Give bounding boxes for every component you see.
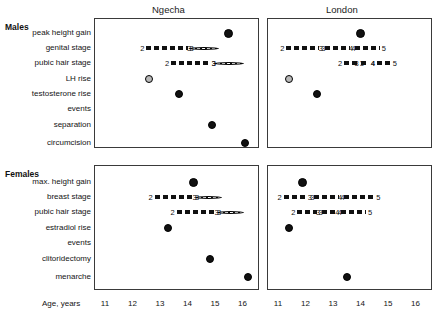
data-point-peak-height-gain: [356, 29, 365, 38]
plot-panel-males-london: [267, 18, 432, 148]
data-point-max-height-gain: [189, 178, 198, 187]
stage-number: 4: [334, 208, 340, 217]
stage-number: 4: [337, 193, 343, 202]
row-label-lh-rise: LH rise: [9, 74, 91, 83]
row-label-circumcision: circumcision: [29, 138, 91, 147]
row-label-clitoridectomy: clitoridectomy: [29, 254, 91, 263]
stage-bar-breast-stage: 233445: [0, 192, 437, 202]
data-point-testosterone-rise: [313, 90, 321, 98]
stage-number: 3: [307, 193, 313, 202]
stage-number: 5: [375, 193, 381, 202]
data-point-menarche: [343, 273, 351, 281]
row-label-menarche: menarche: [29, 272, 91, 281]
x-axis-label: Age, years: [42, 299, 80, 308]
data-point-lh-rise: [285, 75, 293, 83]
stage-number: 5: [381, 44, 387, 53]
row-label-estradiol-rise: estradiol rise: [9, 223, 91, 232]
row-label-testosterone-rise: testosterone rise: [9, 89, 91, 98]
stage-number: 5: [367, 208, 373, 217]
row-label-events: events: [9, 104, 91, 113]
x-tick-label: 16: [407, 299, 425, 308]
stage-segment: [377, 61, 391, 65]
x-tick-label: 11: [96, 299, 114, 308]
plot-panel-males-ngecha: [94, 18, 259, 148]
stage-bar-pubic-hair-stage: 233445: [0, 58, 437, 68]
stage-number: 3: [318, 44, 324, 53]
figure-root: Ngecha London Males Females peak height …: [0, 0, 437, 320]
x-tick-label: 12: [297, 299, 315, 308]
stage-number: 4: [348, 44, 354, 53]
data-point-lh-rise: [145, 75, 153, 83]
stage-number: 5: [392, 59, 398, 68]
x-tick-label: 12: [124, 299, 142, 308]
x-tick-label: 14: [352, 299, 370, 308]
data-point-estradiol-rise: [285, 224, 293, 232]
x-tick-label: 16: [234, 299, 252, 308]
stage-segment: [286, 46, 319, 50]
data-point-clitoridectomy: [206, 255, 214, 263]
panel-title-ngecha: Ngecha: [152, 4, 185, 15]
x-tick-label: 15: [379, 299, 397, 308]
row-label-separation: separation: [29, 120, 91, 129]
stage-segment: [297, 210, 316, 214]
x-tick-label: 11: [269, 299, 287, 308]
data-point-menarche: [244, 273, 252, 281]
x-tick-label: 14: [179, 299, 197, 308]
stage-number: 4: [370, 59, 376, 68]
stage-number: 3: [354, 59, 360, 68]
data-point-peak-height-gain: [224, 29, 233, 38]
row-label-peak-height-gain: peak height gain: [9, 28, 91, 37]
panel-title-london: London: [326, 4, 358, 15]
stage-number: 2: [279, 44, 285, 53]
plot-panel-females-ngecha: [94, 165, 259, 290]
stage-segment: [341, 210, 366, 214]
stage-segment: [284, 195, 309, 199]
stage-number: 3: [315, 208, 321, 217]
stage-number: 2: [290, 208, 296, 217]
stage-segment: [355, 46, 380, 50]
stage-segment: [314, 195, 339, 199]
stage-segment: [361, 61, 369, 65]
data-point-max-height-gain: [298, 178, 307, 187]
x-tick-label: 13: [324, 299, 342, 308]
stage-bar-genital-stage: 233445: [0, 43, 437, 53]
row-label-events: events: [9, 238, 91, 247]
x-tick-label: 15: [206, 299, 224, 308]
stage-bar-pubic-hair-stage: 233445: [0, 207, 437, 217]
x-tick-label: 13: [151, 299, 169, 308]
stage-number: 2: [277, 193, 283, 202]
row-label-max-height-gain: max. height gain: [9, 177, 91, 186]
stage-segment: [325, 46, 350, 50]
stage-segment: [344, 195, 374, 199]
stage-number: 2: [337, 59, 343, 68]
